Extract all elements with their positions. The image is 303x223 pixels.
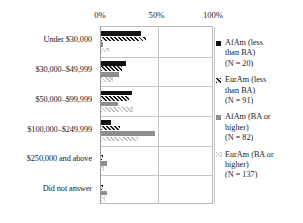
y-axis-category-label: $30,000–$49,999	[0, 56, 96, 86]
legend-label-line: (N = 20)	[225, 59, 302, 69]
income-by-group-bar-chart: 0%50%100% Under $30,000$30,000–$49,999$5…	[0, 0, 303, 223]
legend-label-line: (N = 137)	[225, 170, 302, 180]
bar	[101, 120, 111, 125]
legend-entry: EurAm (lessthan BA)(N = 91)	[216, 75, 302, 106]
bar	[101, 37, 146, 42]
bar	[101, 155, 103, 160]
bar	[101, 161, 107, 166]
legend-label-line: AfAm (less	[225, 38, 302, 48]
legend-swatch-icon	[216, 41, 221, 46]
bar-group	[101, 86, 212, 116]
x-axis-tick-labels: 0%50%100%	[100, 10, 213, 24]
y-axis-category-label: Under $30,000	[0, 26, 96, 56]
x-tick-label: 100%	[203, 10, 223, 20]
y-axis-category-labels: Under $30,000$30,000–$49,999$50,000–$99,…	[0, 26, 96, 204]
legend-label-line: EurAm (less	[225, 75, 302, 85]
legend-label-line: (N = 91)	[225, 96, 302, 106]
bar	[101, 102, 118, 107]
y-axis-category-label: Did not answer	[0, 174, 96, 204]
bar	[101, 66, 122, 71]
legend-label-line: (N = 82)	[225, 133, 302, 143]
plot-area	[100, 26, 213, 204]
bar	[101, 185, 103, 190]
bar	[101, 131, 155, 136]
chart-legend: AfAm (lessthan BA)(N = 20)EurAm (lesstha…	[216, 38, 302, 208]
bar	[101, 91, 132, 96]
bar	[101, 31, 141, 36]
bar	[101, 61, 126, 66]
bar	[101, 126, 120, 131]
legend-label-line: AfAm (BA or	[225, 112, 302, 122]
legend-label-line: than BA)	[225, 48, 302, 58]
bar-group	[101, 57, 212, 87]
bar	[101, 77, 113, 82]
y-axis-category-label: $50,000–$99,999	[0, 85, 96, 115]
x-tick-label: 50%	[149, 10, 165, 20]
bar	[101, 137, 138, 142]
bar	[101, 72, 119, 77]
bar	[101, 42, 103, 47]
legend-entry: AfAm (BA orhigher)(N = 82)	[216, 112, 302, 143]
bar-group	[101, 146, 212, 176]
bar	[101, 107, 133, 112]
y-axis-category-label: $100,000–$249,999	[0, 115, 96, 145]
y-axis-category-label: $250,000 and above	[0, 145, 96, 175]
legend-swatch-icon	[216, 152, 222, 157]
legend-label-line: higher)	[225, 160, 302, 170]
bar	[101, 166, 104, 171]
bar-group	[101, 27, 212, 57]
bar	[101, 191, 107, 196]
bar	[101, 96, 129, 101]
legend-label-line: higher)	[225, 123, 302, 133]
bar-group	[101, 116, 212, 146]
bar	[101, 48, 109, 53]
bar-group	[101, 175, 212, 205]
legend-swatch-icon	[216, 78, 221, 83]
legend-label-line: than BA)	[225, 86, 302, 96]
bar	[101, 196, 105, 201]
legend-entry: AfAm (lessthan BA)(N = 20)	[216, 38, 302, 69]
legend-label-line: EurAm (BA or	[225, 150, 302, 160]
legend-swatch-icon	[216, 115, 221, 120]
vertical-gridline	[214, 27, 215, 203]
x-tick-label: 0%	[94, 10, 105, 20]
legend-entry: EurAm (BA orhigher)(N = 137)	[216, 150, 302, 181]
